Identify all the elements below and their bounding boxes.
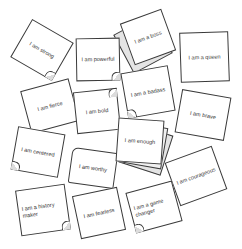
note-text: I am brave (190, 109, 217, 120)
page-curl-icon (111, 72, 120, 81)
note-text: I am courageous (176, 166, 217, 186)
note-text: I am powerful (81, 56, 114, 63)
sticky-note-enough: I am enough (116, 117, 165, 164)
page-curl-icon (61, 220, 71, 230)
note-text: I am a queen (188, 53, 220, 61)
note-text: I am enough (125, 137, 156, 146)
note-text: I am a badass (130, 86, 165, 99)
note-text: I am a history maker (21, 200, 65, 219)
sticky-note-strong: I am strong (10, 19, 74, 81)
note-text: I am bold (85, 106, 108, 115)
note-text: I am fierce (37, 99, 64, 112)
note-text: I am strong (28, 40, 55, 60)
page-curl-icon (11, 161, 21, 171)
sticky-note-worthy: I am worthy (68, 147, 119, 189)
sticky-note-fierce: I am fierce (20, 78, 80, 133)
sticky-note-bold: I am bold (73, 88, 121, 134)
sticky-note-badass: I am a badass (120, 65, 175, 119)
page-curl-icon (134, 222, 145, 233)
note-text: I am a game changer (133, 195, 175, 219)
sticky-note-fearless: I am fearless (72, 187, 126, 240)
sticky-note-history-maker: I am a history maker (15, 184, 71, 237)
page-curl-icon (108, 88, 118, 98)
sticky-note-game-changer: I am a game changer (125, 181, 182, 234)
note-text: I am a boss (133, 29, 162, 45)
note-text: I am fearless (83, 206, 115, 219)
sticky-note-brave: I am brave (175, 89, 232, 141)
sticky-note-powerful: I am powerful (76, 38, 121, 82)
sticky-note-queen: I am a queen (179, 31, 230, 83)
note-text: I am centered (21, 146, 55, 159)
sticky-note-centered: I am centered (11, 126, 66, 178)
note-text: I am worthy (78, 163, 107, 174)
page-curl-icon (44, 69, 56, 81)
